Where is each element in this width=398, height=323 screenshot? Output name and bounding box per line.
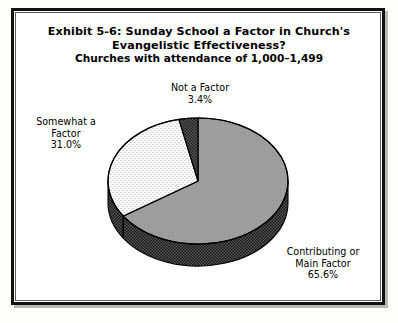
- slice-label-somewhat-line-1: Somewhat a: [20, 116, 112, 128]
- slice-label-not-a-factor-value: 3.4%: [148, 94, 252, 106]
- slice-label-not-a-factor: Not a Factor 3.4%: [148, 82, 252, 105]
- slice-label-contributing-line-2: Main Factor: [268, 258, 378, 270]
- slice-label-somewhat-a-factor: Somewhat a Factor 31.0%: [20, 116, 112, 151]
- slice-label-somewhat-line-2: Factor: [20, 128, 112, 140]
- slice-label-somewhat-value: 31.0%: [20, 139, 112, 151]
- slice-label-contributing-or-main-factor: Contributing or Main Factor 65.6%: [268, 246, 378, 281]
- slice-label-contributing-value: 65.6%: [268, 269, 378, 281]
- exhibit-figure: Exhibit 5-6: Sunday School a Factor in C…: [0, 0, 398, 323]
- slice-label-not-a-factor-line-1: Not a Factor: [148, 82, 252, 94]
- slice-label-contributing-line-1: Contributing or: [268, 246, 378, 258]
